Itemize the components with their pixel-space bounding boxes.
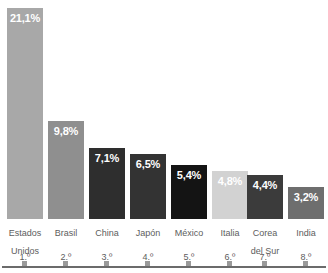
bar-value-label: 7,1% — [95, 153, 119, 164]
axis-tick — [145, 261, 150, 266]
category-label: México — [175, 228, 204, 238]
category-label: Japón — [136, 228, 161, 238]
bar[interactable]: 4,4% — [247, 175, 283, 219]
bar-value-label: 6,5% — [136, 159, 160, 170]
axis-tick — [227, 261, 232, 266]
bar-value-label: 21,1% — [10, 13, 40, 24]
bar-value-label: 4,8% — [218, 176, 242, 187]
x-axis-line — [2, 266, 326, 268]
bar-value-label: 5,4% — [177, 170, 201, 181]
axis-tick — [22, 261, 27, 266]
bar[interactable]: 4,8% — [212, 171, 248, 219]
axis-tick — [186, 261, 191, 266]
bar-slot: 3,2% — [288, 187, 324, 219]
category-slot: China — [84, 222, 130, 240]
rank-labels-row: 1.º 2.º 3.º 4.º 5.º 6.º 7.º 8.º — [0, 246, 328, 260]
bar-slot: 7,1% — [89, 148, 125, 219]
axis-tick — [262, 261, 267, 266]
category-label: China — [95, 228, 119, 238]
bar-slot: 6,5% — [130, 154, 166, 219]
axis-tick — [303, 261, 308, 266]
bar[interactable]: 5,4% — [171, 165, 207, 219]
bar[interactable]: 3,2% — [288, 187, 324, 219]
bar-slot: 9,8% — [48, 121, 84, 219]
axis-tick — [104, 261, 109, 266]
category-slot: México — [166, 222, 212, 240]
bar[interactable]: 9,8% — [48, 121, 84, 219]
bar-slot: 4,8% — [212, 171, 248, 219]
category-labels-row: Estados Unidos Brasil China Japón México… — [0, 222, 328, 246]
bar-value-label: 9,8% — [54, 126, 78, 137]
axis-tick — [63, 261, 68, 266]
bar-slot: 5,4% — [171, 165, 207, 219]
plot-area: 21,1% 9,8% 7,1% 6,5% 5,4% 4,8% — [0, 0, 328, 219]
category-label: Italia — [220, 228, 239, 238]
category-slot: India — [283, 222, 328, 240]
bar-chart: 21,1% 9,8% 7,1% 6,5% 5,4% 4,8% — [0, 0, 328, 273]
bar-value-label: 3,2% — [294, 192, 318, 203]
bar-slot: 4,4% — [247, 175, 283, 219]
bar[interactable]: 6,5% — [130, 154, 166, 219]
category-slot: Brasil — [43, 222, 89, 240]
category-slot: Japón — [125, 222, 171, 240]
bar[interactable]: 7,1% — [89, 148, 125, 219]
category-label: Brasil — [55, 228, 78, 238]
bar-slot: 21,1% — [7, 8, 43, 219]
bar-value-label: 4,4% — [253, 180, 277, 191]
category-label: India — [296, 228, 316, 238]
bar[interactable]: 21,1% — [7, 8, 43, 219]
